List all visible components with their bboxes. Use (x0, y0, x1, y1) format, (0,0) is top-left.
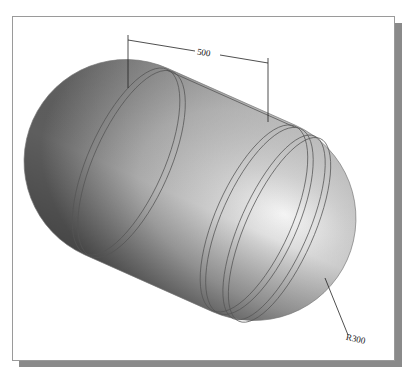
dimension-line-left (128, 40, 195, 51)
length-label: 500 (196, 46, 211, 58)
capsule-body (0, 27, 389, 353)
capsule-drawing: 500 R300 (0, 0, 413, 374)
radius-label: R300 (345, 332, 367, 346)
radius-leader (325, 278, 348, 335)
dimension-line-right (220, 55, 268, 63)
